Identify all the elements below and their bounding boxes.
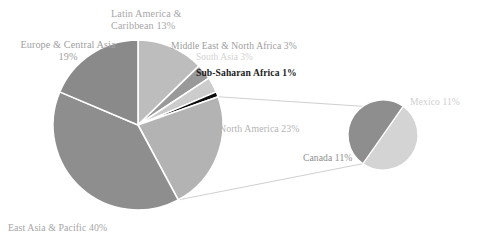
exploded-pie-slices [348,100,418,170]
main-pie-slices [53,40,223,210]
slice-label-canada: Canada 11% [303,152,352,163]
slice-label-europe-central-asia: Europe & Central Asia 19% [5,39,131,63]
pie-chart-figure: Latin America & Caribbean 13% Europe & C… [0,0,481,245]
slice-label-north-america: North America 23% [219,123,300,135]
slice-label-mexico: Mexico 11% [410,96,460,107]
slice-label-latin-america: Latin America & Caribbean 13% [111,8,182,32]
slice-label-south-asia: South Asia 3% [196,52,253,63]
slice-label-east-asia-pacific: East Asia & Pacific 40% [8,222,107,234]
slice-label-middle-east-north-africa: Middle East & North Africa 3% [171,40,297,51]
leader-line-top [218,97,363,107]
slice-label-sub-saharan-africa: Sub-Saharan Africa 1% [196,67,297,78]
